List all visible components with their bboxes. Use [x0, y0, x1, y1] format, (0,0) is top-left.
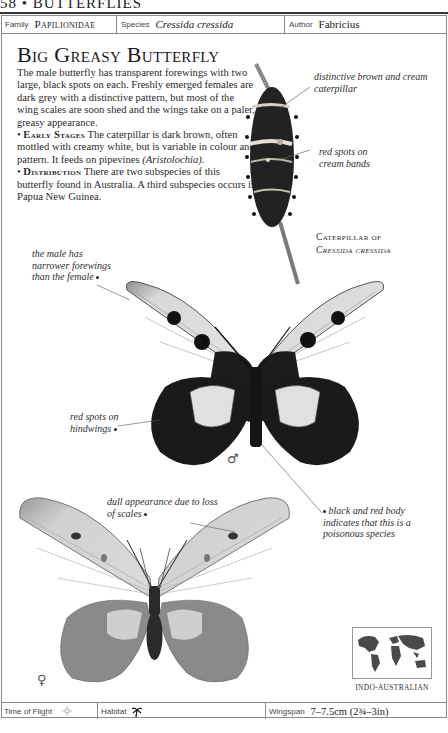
annotation-text: dull appearance due to loss of scales — [107, 496, 218, 519]
annotation-caterpillar-color: distinctive brown and cream caterpillar — [314, 71, 444, 94]
wingspan-label: Wingspan — [269, 707, 305, 716]
annotation-male-forewings: the male has narrower forewings than the… — [32, 248, 112, 283]
description: The male butterfly has transparent forew… — [17, 67, 257, 203]
annotation-text: red spots on cream bands — [319, 146, 370, 169]
info-bar: Family Papilionidae Species Cressida cre… — [1, 15, 447, 34]
male-symbol: ♂ — [227, 451, 239, 466]
running-head: 58 • BUTTERFLIES — [0, 0, 142, 10]
annotation-dull-appearance: dull appearance due to loss of scales — [107, 496, 222, 519]
caption-line2: Cressida cressida — [316, 244, 391, 257]
distribution-map — [352, 627, 432, 679]
distribution-heading: Distribution — [23, 166, 81, 177]
female-symbol: ♀ — [37, 672, 47, 687]
caterpillar-caption: Caterpillar of Cressida cressida — [316, 231, 391, 257]
habitat-cell: Habitat — [98, 703, 266, 719]
pointer-dot — [144, 513, 147, 516]
annotation-red-spots-bands: red spots on cream bands — [319, 146, 379, 169]
species-value: Cressida cressida — [155, 18, 233, 30]
host-plant: (Aristolochia). — [142, 154, 204, 165]
author-value: Fabricius — [319, 18, 360, 30]
pointer-dot — [96, 276, 99, 279]
header-rule — [0, 12, 448, 14]
species-cell: Species Cressida cressida — [117, 15, 285, 33]
family-value: Papilionidae — [35, 18, 96, 30]
caterpillar-body — [245, 87, 299, 227]
early-stages-paragraph: • Early Stages The caterpillar is dark b… — [17, 129, 257, 166]
habitat-label: Habitat — [101, 707, 126, 716]
map-region-label: INDO-AUSTRALIAN — [352, 683, 432, 692]
world-map-icon — [353, 628, 431, 678]
male-butterfly-illustration — [115, 272, 395, 472]
annotation-text: red spots on hindwings — [70, 411, 119, 434]
page-title: Big Greasy Butterfly — [17, 42, 219, 68]
distribution-paragraph: • Distribution There are two subspecies … — [17, 166, 257, 203]
sun-icon — [62, 706, 72, 716]
wingspan-cell: Wingspan 7–7.5cm (2¾–3in) — [266, 703, 447, 719]
pointer-dot — [114, 428, 117, 431]
caption-line1: Caterpillar of — [316, 231, 391, 244]
early-stages-heading: Early Stages — [23, 129, 85, 140]
intro-paragraph: The male butterfly has transparent forew… — [17, 67, 257, 129]
footer-info-bar: Time of Flight Habitat Wingspan 7–7.5cm … — [1, 702, 447, 719]
author-cell: Author Fabricius — [285, 15, 447, 33]
annotation-text: black and red body indicates that this i… — [323, 505, 411, 539]
time-of-flight-label: Time of Flight — [4, 707, 52, 716]
annotation-red-spots-hindwings: red spots on hindwings — [70, 411, 130, 434]
annotation-text: distinctive brown and cream caterpillar — [314, 71, 427, 94]
family-cell: Family Papilionidae — [1, 15, 117, 33]
annotation-poisonous-body: black and red body indicates that this i… — [323, 505, 438, 540]
family-label: Family — [5, 20, 29, 29]
annotation-text: the male has narrower forewings than the… — [32, 248, 111, 282]
time-of-flight-cell: Time of Flight — [1, 703, 98, 719]
palm-tree-icon — [132, 706, 142, 717]
author-label: Author — [289, 20, 313, 29]
wingspan-value: 7–7.5cm (2¾–3in) — [311, 706, 389, 717]
pointer-dot — [323, 510, 326, 513]
caterpillar-illustration — [240, 62, 310, 287]
species-label: Species — [121, 20, 149, 29]
